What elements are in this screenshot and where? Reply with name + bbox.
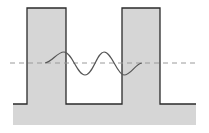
- potential-fill: [13, 8, 196, 125]
- double-barrier-diagram: [0, 0, 209, 133]
